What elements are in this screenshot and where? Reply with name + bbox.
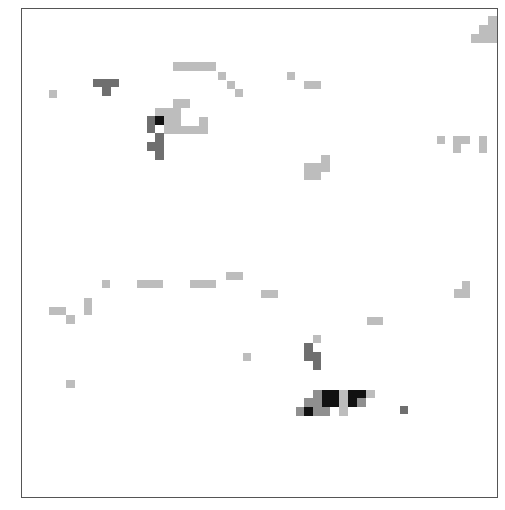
heatmap-cell [367,317,383,325]
heatmap-cell [437,136,445,144]
heatmap-cell [155,133,164,142]
heatmap-cell [357,398,366,407]
heatmap-cell [453,144,461,153]
heatmap-cell [243,353,251,361]
heatmap-cell [155,151,164,160]
heatmap-cell [227,81,235,89]
heatmap-cell [49,307,66,315]
heatmap-cell [66,315,75,324]
heatmap-cell [313,390,322,398]
heatmap-cell [49,90,57,98]
heatmap-cell [313,335,321,343]
heatmap-cell [147,142,164,151]
heatmap-cell [93,79,119,87]
heatmap-cell [304,163,330,172]
heatmap-cell [164,126,208,134]
heatmap-cell [102,280,110,288]
heatmap-cell [304,172,321,180]
heatmap-cell [261,290,278,298]
heatmap-cell [488,16,497,25]
heatmap-cell [322,390,339,407]
heatmap-cell [471,34,497,43]
heatmap-cell [304,343,313,361]
heatmap-cell [453,136,470,144]
heatmap-cell [348,390,366,398]
heatmap-cell [173,99,190,108]
heatmap-cell [226,272,243,280]
heatmap-cell [462,281,470,289]
heatmap-cell [313,352,321,370]
heatmap-cell [454,289,470,298]
heatmap-cell [348,398,357,407]
heatmap-cell [84,298,92,315]
heatmap-cell [164,117,181,126]
heatmap-grid [0,0,505,510]
heatmap-cell [218,72,226,80]
heatmap-cell [304,81,321,89]
heatmap-cell [147,116,155,133]
heatmap-cell [102,87,111,96]
heatmap-cell [313,407,330,416]
heatmap-cell [304,398,322,407]
heatmap-cell [479,136,487,153]
heatmap-cell [199,117,208,126]
heatmap-cell [400,406,408,414]
heatmap-cell [66,380,75,388]
heatmap-cell [137,280,163,288]
heatmap-cell [190,280,216,288]
heatmap-cell [173,62,216,71]
heatmap-cell [235,89,243,97]
heatmap-cell [366,390,375,398]
heatmap-cell [304,407,313,416]
heatmap-cell [155,116,164,125]
heatmap-cell [296,407,304,416]
heatmap-cell [287,72,295,80]
heatmap-cell [479,25,497,34]
heatmap-cell [339,390,348,416]
